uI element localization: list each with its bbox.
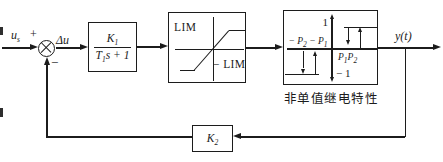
limiter-lower-label: − LIM — [213, 59, 245, 71]
arrowhead-right-icon — [275, 44, 283, 50]
limiter-upper-label: LIM — [174, 22, 196, 34]
output-label: y(t) — [395, 30, 412, 42]
arrowhead-up-icon — [358, 27, 362, 32]
k1-denominator: T1s + 1 — [96, 49, 130, 62]
gain-block-k1: K1 T1s + 1 — [88, 22, 137, 72]
saturation-upper-flat — [229, 30, 246, 31]
arrowhead-right-icon — [30, 44, 38, 50]
saturation-lower-flat — [180, 70, 195, 71]
scan-artifact — [0, 27, 3, 35]
error-signal-line — [56, 47, 81, 48]
arrowhead-right-icon — [80, 44, 88, 50]
relay-right-thresholds-label: P1P2 — [338, 53, 357, 63]
relay-switch-down-line — [348, 27, 349, 41]
axis-arrow-down-icon — [330, 77, 334, 82]
minus-sign: − — [51, 56, 58, 69]
plus-sign: + — [30, 28, 37, 40]
arrowhead-down-icon — [301, 69, 305, 74]
signal-line — [246, 47, 276, 48]
k1-fraction: K1 T1s + 1 — [89, 23, 136, 71]
arrowhead-right-icon — [160, 43, 168, 49]
arrowhead-down-icon — [346, 40, 350, 45]
relay-caption: 非单值继电特性 — [283, 91, 379, 106]
feedback-line — [241, 136, 405, 137]
fraction-bar — [94, 47, 131, 48]
relay-block: 1 − 1 − P2 − P1 P1P2 — [283, 10, 378, 85]
input-signal-line — [2, 47, 31, 48]
relay-pos-level-label: 1 — [314, 17, 328, 28]
feedback-line — [46, 136, 192, 137]
relay-y-axis — [331, 18, 332, 78]
arrowhead-up-icon — [44, 57, 50, 65]
k2-label: K2 — [193, 126, 232, 151]
arrowhead-left-icon — [233, 133, 241, 139]
relay-left-thresholds-label: − P2 − P1 — [286, 37, 330, 47]
axis-arrow-up-icon — [330, 14, 334, 19]
signal-line — [137, 46, 161, 47]
relay-switch-down-line — [303, 51, 304, 68]
k1-numerator: K1 — [107, 32, 118, 45]
summing-junction — [38, 40, 55, 57]
relay-switch-up-line — [360, 31, 361, 48]
feedback-rise-line — [46, 64, 47, 137]
limiter-block: LIM − LIM — [168, 12, 246, 83]
feedback-branch-line — [405, 48, 406, 137]
scan-artifact — [0, 108, 3, 117]
feedback-gain-block: K2 — [192, 125, 233, 152]
input-signal-label: us — [11, 29, 20, 41]
block-diagram: us + − Δu K1 T1s + 1 LIM − LIM — [0, 0, 443, 162]
relay-neg-level-label: − 1 — [336, 68, 350, 79]
relay-switch-up-line — [315, 56, 316, 74]
arrowhead-right-icon — [433, 44, 441, 50]
error-label: Δu — [56, 34, 69, 46]
arrowhead-up-icon — [313, 51, 317, 56]
